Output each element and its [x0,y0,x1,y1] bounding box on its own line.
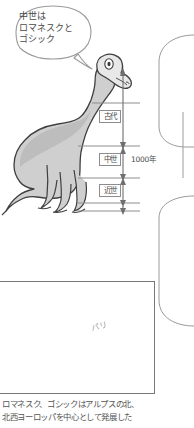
era-box-early-modern: 近世 [99,184,121,197]
dinosaur-foot-1 [38,207,51,209]
connector-lines [159,35,194,326]
comic-panel: 中世は ロマネスクと ゴシック 古代 中世 近世 1000年 パリ ロマネスク、… [0,0,194,428]
connector-upper [159,35,194,147]
timeline-span-label: 1000年 [131,155,156,165]
dinosaur-tail-tip [2,211,6,215]
dinosaur-pupil [107,62,110,67]
era-box-medieval: 中世 [99,153,121,166]
figure-caption: ロマネスク、ゴシックはアルプスの北、 北西ヨーロッパを中心として発展した [2,398,194,423]
speech-bubble-tail [74,54,92,69]
speech-bubble-text: 中世は ロマネスクと ゴシック [19,11,87,46]
era-box-ancient: 古代 [99,110,121,123]
map-frame [0,281,155,394]
connector-lower [159,196,194,326]
